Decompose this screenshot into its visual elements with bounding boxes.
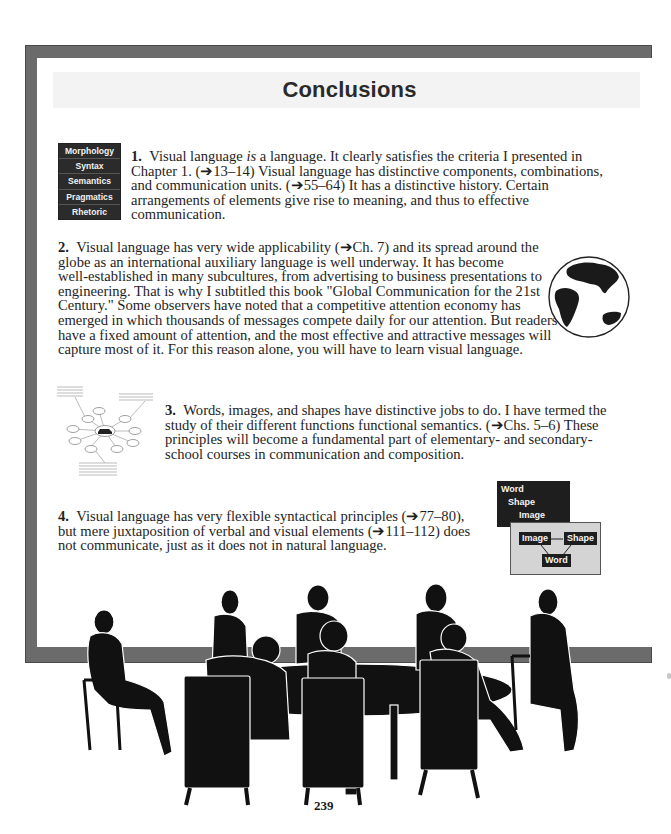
- title-band: Conclusions: [53, 72, 640, 108]
- conclusion-number: 3.: [165, 402, 176, 418]
- scan-speck: [667, 673, 671, 679]
- linguistic-levels-box: Morphology Syntax Semantics Pragmatics R…: [58, 143, 121, 220]
- stack-shape: Shape: [508, 497, 535, 507]
- level-syntax: Syntax: [59, 159, 120, 174]
- conclusion-1: 1. Visual language is a language. It cle…: [131, 149, 603, 222]
- word-shape-image-stack: Word Shape Image: [497, 481, 570, 527]
- conclusion-number: 1.: [131, 148, 142, 164]
- level-semantics: Semantics: [59, 174, 120, 189]
- conclusion-number: 2.: [58, 239, 69, 255]
- conclusion-1-line-1: 1. Visual language is a language. It cle…: [131, 149, 603, 164]
- meeting-illustration-icon: [60, 580, 600, 810]
- page-number: 239: [314, 798, 334, 814]
- conclusion-2: 2. Visual language has very wide applica…: [58, 240, 557, 357]
- globe-icon: [547, 255, 631, 339]
- chip-shape: Shape: [564, 532, 597, 545]
- level-rhetoric: Rhetoric: [59, 205, 120, 219]
- conclusion-4: 4. Visual language has very flexible syn…: [58, 509, 470, 553]
- level-morphology: Morphology: [59, 144, 120, 159]
- stack-image: Image: [519, 510, 545, 520]
- page-title: Conclusions: [282, 77, 416, 103]
- chip-image: Image: [519, 532, 551, 545]
- chip-word: Word: [542, 554, 571, 567]
- level-pragmatics: Pragmatics: [59, 190, 120, 205]
- stack-word: Word: [501, 484, 524, 494]
- mind-map-diagram-icon: [55, 383, 155, 479]
- conclusion-number: 4.: [58, 508, 69, 524]
- word-shape-image-linked: Image Shape Word: [510, 522, 601, 575]
- conclusion-3: 3. Words, images, and shapes have distin…: [165, 403, 606, 461]
